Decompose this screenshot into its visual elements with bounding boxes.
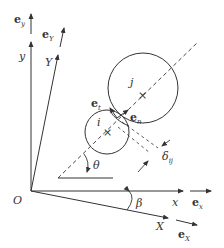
label-e-n: en — [130, 111, 142, 126]
label-delta: δij — [162, 150, 174, 165]
label-i: i — [97, 116, 101, 129]
label-j: j — [127, 76, 134, 89]
e-X-arrow — [176, 220, 197, 225]
beta-arc — [127, 191, 132, 210]
X-axis — [31, 191, 168, 218]
center-mark-i: × — [103, 126, 112, 139]
label-Y: Y — [45, 56, 54, 69]
label-y: y — [18, 50, 26, 63]
delta-arrow-bottom — [138, 161, 148, 172]
contact-diagram: × × ey eY y Y et en i j θ δij O x ex β X… — [0, 0, 224, 248]
e-Y-arrow — [60, 28, 64, 47]
delta-arrow-top — [162, 140, 170, 146]
center-mark-j: × — [138, 89, 147, 102]
label-beta: β — [135, 197, 142, 210]
label-O: O — [13, 194, 22, 207]
label-e-Y: eY — [42, 28, 55, 43]
label-X: X — [155, 220, 165, 233]
label-e-X: eX — [178, 228, 191, 243]
label-e-t: et — [91, 97, 101, 112]
label-e-y: ey — [14, 13, 26, 28]
label-e-x: ex — [192, 196, 203, 211]
label-x: x — [172, 196, 179, 209]
particle-j — [108, 53, 178, 123]
Y-axis — [31, 55, 58, 191]
label-theta: θ — [93, 159, 100, 172]
theta-arc — [84, 154, 88, 172]
